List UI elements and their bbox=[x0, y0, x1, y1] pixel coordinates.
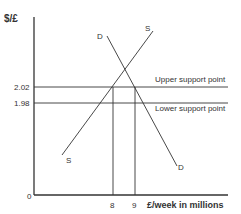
supply-label-top: S bbox=[145, 24, 150, 33]
upper-support-label: Upper support point bbox=[155, 75, 226, 84]
origin-label: 0 bbox=[27, 192, 32, 201]
demand-curve bbox=[107, 36, 177, 166]
support-points-diagram: $/£ 0 2.02 1.98 Upper support point Lowe… bbox=[0, 0, 241, 214]
supply-label-bottom: S bbox=[66, 156, 71, 165]
lower-support-label: Lower support point bbox=[155, 104, 226, 113]
y-tick-2-02: 2.02 bbox=[14, 83, 30, 92]
x-tick-9: 9 bbox=[132, 201, 137, 210]
demand-label-bottom: D bbox=[178, 163, 184, 172]
demand-label-top: D bbox=[97, 32, 103, 41]
y-tick-1-98: 1.98 bbox=[14, 99, 30, 108]
x-tick-8: 8 bbox=[110, 201, 115, 210]
supply-curve bbox=[62, 31, 153, 155]
x-axis-label: £/week in millions bbox=[147, 200, 224, 210]
y-axis-label: $/£ bbox=[4, 13, 18, 24]
